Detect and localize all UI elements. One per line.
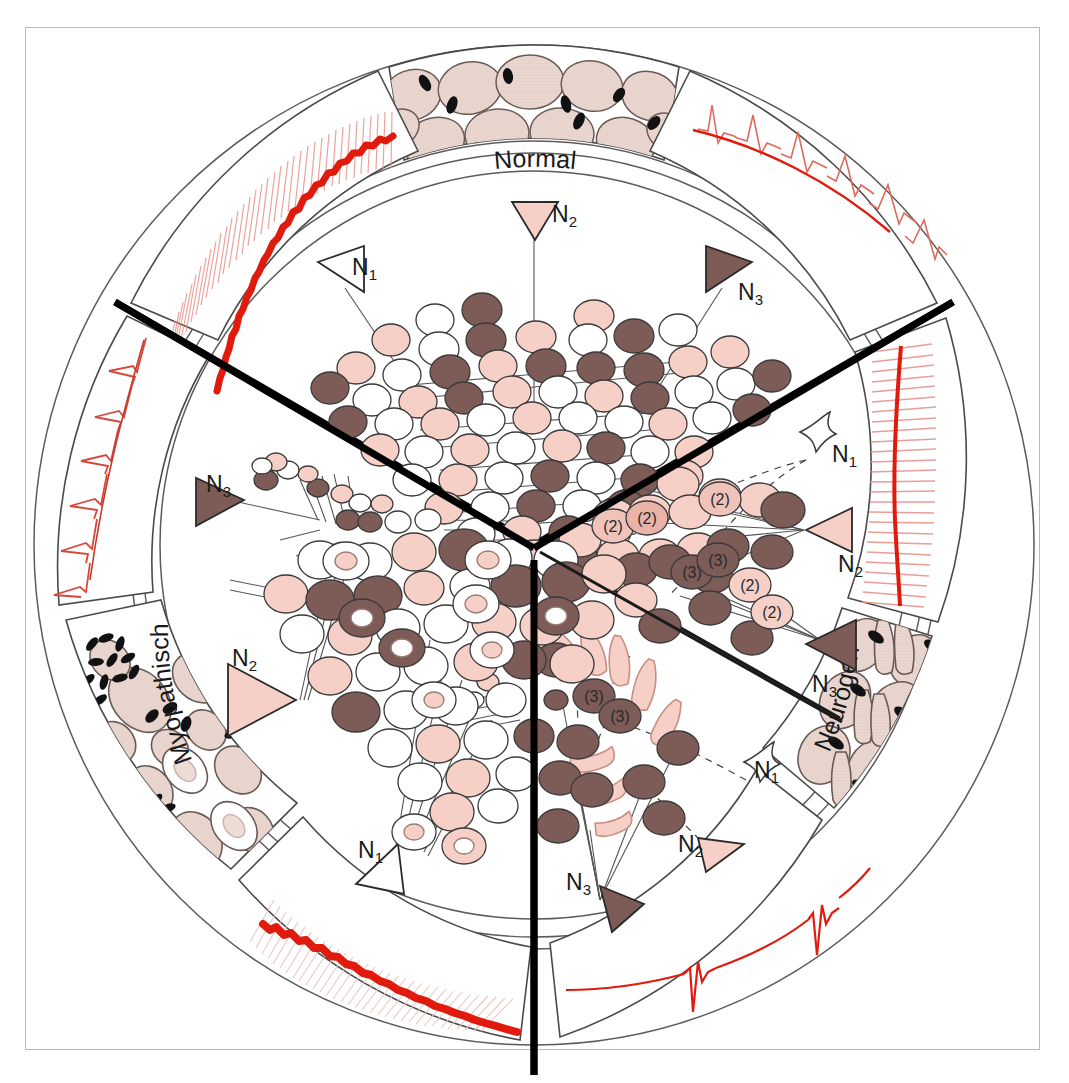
tag-3-d: (3) <box>599 699 641 733</box>
neuron-label-N3-myo: N3 <box>206 471 231 500</box>
svg-text:(2): (2) <box>637 510 657 527</box>
tag-2-e: (2) <box>751 595 793 629</box>
panel-emg-myopathisch-dense <box>239 817 531 1040</box>
neuron-myo-N1[interactable]: N1 <box>356 837 404 894</box>
neuron-label-N2-neurogen: N2 <box>838 551 863 580</box>
tag-2-c: (2) <box>699 482 741 516</box>
tag-3-b: (3) <box>697 543 739 577</box>
svg-text:(3): (3) <box>584 688 604 705</box>
neuron-neurogen-N2[interactable]: N2 <box>806 508 863 580</box>
neuron-label-N2-normal: N2 <box>552 201 577 230</box>
circular-diagram: Normal Neurogen Myopathisch N1 <box>0 0 1069 1083</box>
neuron-label-N1-myo: N1 <box>358 837 383 866</box>
neuron-myo-N3[interactable]: N3 <box>196 471 244 526</box>
svg-text:(3): (3) <box>708 552 728 569</box>
panel-emg-normal-muap <box>650 71 947 340</box>
sector-label-normal: Normal <box>493 144 578 174</box>
neuron-label-N3-normal: N3 <box>738 279 763 308</box>
neuron-neurogen-N1[interactable]: N1 <box>800 412 857 470</box>
panel-emg-neurogen-giant <box>550 769 870 1037</box>
svg-text:(2): (2) <box>710 491 730 508</box>
svg-text:(3): (3) <box>610 708 630 725</box>
neuron-myo-N2[interactable]: N2 <box>228 645 296 736</box>
neuron-label-N1-neurogen: N1 <box>832 441 857 470</box>
neuron-normal-N2[interactable]: N2 <box>512 201 577 240</box>
neuron-label-N2-myo: N2 <box>232 645 257 674</box>
neuron-label-N2-neurogen2: N2 <box>678 831 703 860</box>
svg-text:(2): (2) <box>740 577 760 594</box>
panel-emg-myopathisch-small <box>54 316 209 605</box>
panel-emg-neurogen-spikes <box>848 318 966 622</box>
tag-2-b: (2) <box>626 501 668 535</box>
neuron-label-N3-neurogen2: N3 <box>566 869 591 898</box>
svg-text:(2): (2) <box>603 518 623 535</box>
diagram-svg: Normal Neurogen Myopathisch N1 <box>0 0 1069 1083</box>
neuron-label-N1-normal: N1 <box>352 254 377 283</box>
neuron-normal-N1[interactable]: N1 <box>318 246 377 292</box>
svg-text:(2): (2) <box>762 604 782 621</box>
